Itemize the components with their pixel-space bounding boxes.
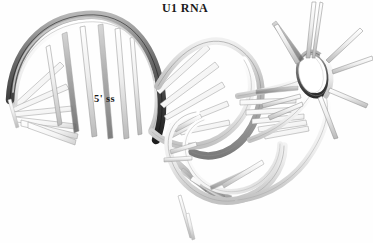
five-prime-splice-site-label: 5' ss: [94, 93, 115, 104]
molecule-diagram: [0, 0, 373, 243]
u1-rna-figure: U1 RNA 5' ss: [0, 0, 373, 243]
figure-title: U1 RNA: [162, 1, 208, 16]
